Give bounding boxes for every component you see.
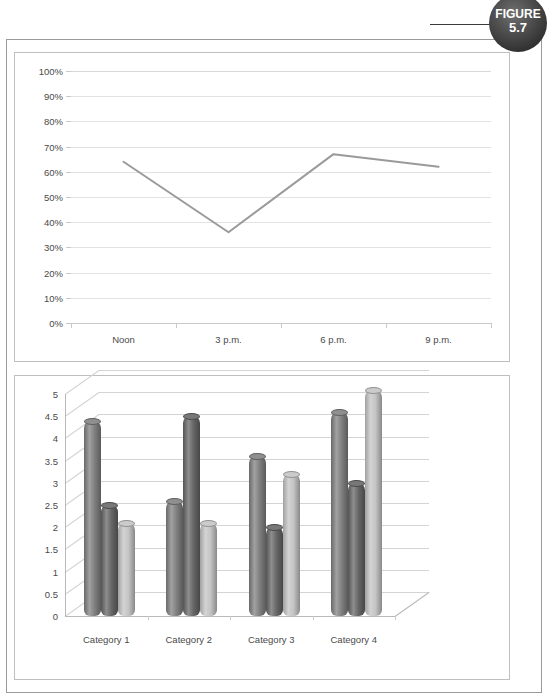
bar-chart-bar xyxy=(101,505,118,616)
bar-chart-bar-cap xyxy=(331,409,348,416)
bar-chart-bar xyxy=(331,412,348,616)
bar-chart-x-label: Category 3 xyxy=(248,634,294,645)
bar-chart-bar xyxy=(283,474,300,616)
bar-chart-y-axis xyxy=(65,394,66,616)
bar-chart-bar xyxy=(249,456,266,616)
bar-chart-canvas: 00.511.522.533.544.55Category 1Category … xyxy=(15,376,509,679)
bar-chart-y-label: 2 xyxy=(53,522,58,533)
bar-chart-bar-cap xyxy=(118,520,135,527)
bar-chart-y-label: 3.5 xyxy=(45,455,58,466)
bar-chart-bar-cap xyxy=(101,502,118,509)
bar-chart-bar-cap xyxy=(249,453,266,460)
bar-chart-bar-cap xyxy=(166,498,183,505)
bar-chart-bar xyxy=(365,390,382,616)
bar-chart-y-label: 3 xyxy=(53,477,58,488)
bar-chart-x-label: Category 1 xyxy=(83,634,129,645)
bar-chart-bar-cap xyxy=(283,471,300,478)
figure-badge-label: FIGURE xyxy=(489,8,547,21)
bar-chart-x-label: Category 4 xyxy=(331,634,377,645)
bar-chart-x-tick xyxy=(395,616,396,620)
bar-chart-y-label: 1 xyxy=(53,566,58,577)
bar-chart-x-label: Category 2 xyxy=(166,634,212,645)
bar-chart-y-label: 0.5 xyxy=(45,588,58,599)
bar-chart-y-label: 1.5 xyxy=(45,544,58,555)
bar-chart-bar xyxy=(118,523,135,616)
bar-chart-bar-cap xyxy=(84,418,101,425)
bar-chart-bar-cap xyxy=(266,524,283,531)
bar-chart-bar-cap xyxy=(200,520,217,527)
line-chart-series xyxy=(15,53,509,361)
bar-chart-bar xyxy=(183,416,200,616)
bar-chart-bar-cap xyxy=(348,480,365,487)
bar-chart-floor-edge xyxy=(395,592,430,617)
bar-chart-bar xyxy=(84,421,101,616)
bar-chart-bar xyxy=(266,527,283,616)
bar-chart-bar xyxy=(200,523,217,616)
line-chart-panel: 0%10%20%30%40%50%60%70%80%90%100%Noon3 p… xyxy=(14,52,510,362)
figure-badge: FIGURE 5.7 xyxy=(489,0,547,52)
bar-chart-x-tick xyxy=(230,616,231,620)
bar-chart-x-tick xyxy=(148,616,149,620)
bar-chart-y-label: 4.5 xyxy=(45,411,58,422)
line-chart-canvas: 0%10%20%30%40%50%60%70%80%90%100%Noon3 p… xyxy=(15,53,509,361)
bar-chart-depth-gridline xyxy=(65,392,100,417)
bar-chart-gridline xyxy=(99,370,429,371)
bar-chart-y-label: 0 xyxy=(53,611,58,622)
bar-chart-y-label: 4 xyxy=(53,433,58,444)
bar-chart-bar-cap xyxy=(365,387,382,394)
bar-chart-y-label: 2.5 xyxy=(45,500,58,511)
figure-badge-text: FIGURE 5.7 xyxy=(489,8,547,34)
figure-badge-number: 5.7 xyxy=(489,21,547,35)
bar-chart-y-label: 5 xyxy=(53,389,58,400)
bar-chart-bar xyxy=(166,501,183,616)
bar-chart-bar-cap xyxy=(183,413,200,420)
bar-chart-x-tick xyxy=(313,616,314,620)
bar-chart-bar xyxy=(348,483,365,616)
bar-chart-panel: 00.511.522.533.544.55Category 1Category … xyxy=(14,375,510,680)
